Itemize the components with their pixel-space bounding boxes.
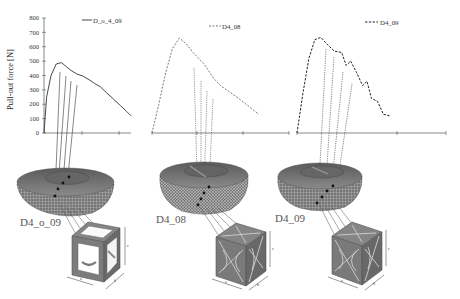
legend: D4_08 (209, 23, 241, 30)
svg-text:b: b (373, 281, 375, 286)
svg-text:a: a (225, 279, 227, 284)
curve-d4-09 (297, 37, 389, 133)
y-axis-title: Pull-out force [N] (5, 49, 15, 110)
svg-text:b: b (257, 282, 259, 287)
y-tick-label: 300 (29, 86, 39, 93)
svg-text:a: a (80, 276, 82, 281)
legend-label: D_o_4_09 (93, 17, 122, 24)
y-tick-label: 700 (29, 29, 39, 36)
svg-text:c: c (388, 246, 390, 251)
y-tick-label: 600 (29, 43, 39, 50)
y-tick-label: 0 (36, 129, 39, 136)
svg-text:c: c (127, 243, 129, 248)
pull-out-figure: Pull-out force [N] 010020030040050060070… (0, 0, 460, 299)
sample-label-d4-o-09: D4_o_09 (20, 216, 61, 228)
legend: D_o_4_09 (82, 17, 122, 24)
lattice-cube-d4-09: c b a (328, 222, 390, 290)
y-tick-label: 200 (29, 100, 39, 107)
svg-text:c: c (272, 246, 274, 251)
sample-label-d4-09: D4_09 (275, 212, 305, 224)
svg-text:b: b (114, 278, 116, 283)
svg-text:a: a (341, 278, 343, 283)
curve-d-o-4-09 (44, 63, 131, 133)
legend-label: D4_08 (222, 23, 241, 30)
legend-label: D4_09 (380, 19, 399, 26)
legend: D4_09 (365, 19, 399, 26)
y-axis-ticks: 0100200300400500600700800 (29, 14, 46, 136)
curve-d4-08 (152, 38, 259, 133)
y-tick-label: 500 (29, 57, 39, 64)
y-tick-label: 100 (29, 115, 39, 122)
y-axis: Pull-out force [N] 010020030040050060070… (5, 14, 46, 136)
y-tick-label: 800 (29, 14, 39, 21)
sample-label-d4-08: D4_08 (156, 213, 186, 225)
lattice-cube-d4-08: c b a (212, 223, 274, 290)
y-tick-label: 400 (29, 72, 39, 79)
lattice-cube-d4-o-09: c b a (67, 222, 129, 289)
